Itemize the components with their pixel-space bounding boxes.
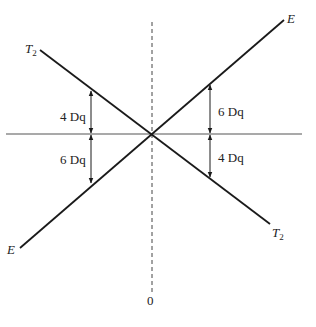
right-lower-label: 4 Dq — [218, 150, 244, 165]
origin-label: 0 — [147, 293, 154, 308]
left-lower-label: 6 Dq — [60, 152, 86, 167]
t2-label-bottom-right: T2 — [272, 225, 284, 242]
crystal-field-splitting-diagram: T2 E E T2 4 Dq 6 Dq 6 Dq 4 Dq 0 — [0, 0, 316, 327]
left-upper-label: 4 Dq — [60, 109, 86, 124]
e-label-bottom-left: E — [6, 242, 15, 257]
right-upper-label: 6 Dq — [218, 104, 244, 119]
t2-label-top-left: T2 — [25, 41, 37, 58]
e-label-top-right: E — [286, 11, 295, 26]
t2-level-line — [40, 50, 270, 224]
